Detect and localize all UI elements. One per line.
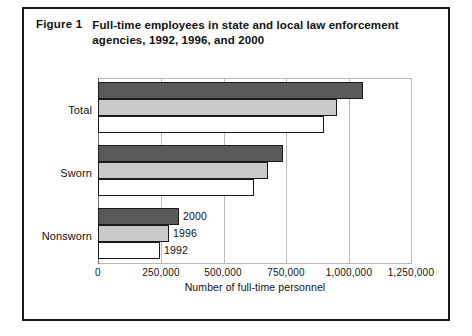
bar-total-1992 <box>98 116 324 133</box>
series-label-1996: 1996 <box>173 227 197 239</box>
xtick-label-750000: 750,000 <box>267 267 305 278</box>
x-axis-ticks: 0 250,000 500,000 750,000 1,000,000 1,25… <box>24 267 452 281</box>
gridline-1000000 <box>349 79 350 263</box>
category-label-nonsworn: Nonsworn <box>26 230 92 242</box>
xtick-label-500000: 500,000 <box>204 267 242 278</box>
xtick-label-250000: 250,000 <box>142 267 180 278</box>
xtick-label-0: 0 <box>95 267 101 278</box>
series-label-1992: 1992 <box>164 244 188 256</box>
bar-nonsworn-1996 <box>98 225 169 242</box>
bar-total-2000 <box>98 82 363 99</box>
bar-sworn-1996 <box>98 162 268 179</box>
category-label-total: Total <box>26 104 92 116</box>
bar-nonsworn-2000 <box>98 208 179 225</box>
bar-chart: 2000 1996 1992 Total Sworn Nonsworn 0 25… <box>24 9 452 323</box>
xtick-label-1000000: 1,000,000 <box>326 267 372 278</box>
bar-total-1996 <box>98 99 337 116</box>
series-label-2000: 2000 <box>183 210 207 222</box>
bar-nonsworn-1992 <box>98 242 160 259</box>
figure-frame: Figure 1 Full-time employees in state an… <box>22 7 450 321</box>
x-axis-label: Number of full-time personnel <box>98 281 412 293</box>
xtick-label-1250000: 1,250,000 <box>388 267 434 278</box>
bar-sworn-1992 <box>98 179 254 196</box>
category-label-sworn: Sworn <box>26 167 92 179</box>
category-axis: Total Sworn Nonsworn <box>24 78 92 264</box>
bar-sworn-2000 <box>98 145 283 162</box>
